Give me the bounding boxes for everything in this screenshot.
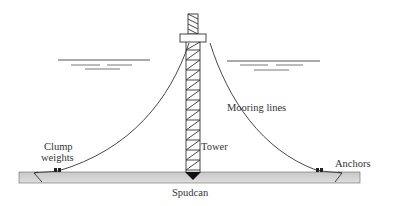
label-clump-weights-2: weights: [41, 152, 74, 163]
label-spudcan: Spudcan: [172, 187, 208, 198]
label-mooring-lines: Mooring lines: [227, 102, 286, 113]
tower-mast-icon: [180, 14, 206, 42]
mooring-lines: [34, 43, 342, 173]
label-clump-weights-1: Clump: [44, 141, 73, 152]
label-anchors: Anchors: [335, 158, 371, 169]
tower-icon: [186, 42, 200, 172]
water-surface-left: [58, 60, 150, 69]
label-tower: Tower: [201, 141, 228, 152]
clump-weight-right-icon: [316, 168, 323, 172]
diagram-canvas: [0, 0, 393, 206]
water-surface-right: [227, 61, 320, 70]
